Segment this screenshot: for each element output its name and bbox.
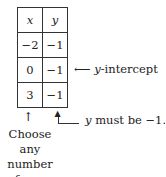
- hook-arrow-icon: [58, 114, 79, 124]
- cell-y: −1: [43, 33, 68, 58]
- hook-arrow-tip-icon: ▲: [55, 109, 61, 118]
- cell-x: −2: [18, 33, 43, 58]
- table-row: −2 −1: [18, 33, 68, 58]
- table-header-row: x y: [18, 8, 68, 33]
- cell-x: 3: [18, 83, 43, 108]
- cell-y: −1: [43, 83, 68, 108]
- choose-line-3: for x.: [0, 172, 60, 177]
- xy-table: x y −2 −1 0 −1 3 −1: [17, 7, 68, 108]
- y-must-annotation: y must be −1.: [85, 113, 165, 127]
- choose-x-annotation: Choose any number for x.: [0, 127, 60, 177]
- header-y: y: [43, 8, 68, 33]
- y-intercept-annotation: ⟵ y-intercept: [74, 62, 158, 76]
- left-arrow-icon: ⟵: [74, 62, 91, 76]
- cell-y: −1: [43, 58, 68, 83]
- up-arrow-icon: ↑: [23, 110, 33, 124]
- header-x: x: [18, 8, 43, 33]
- choose-line-3-suffix: .: [42, 172, 46, 177]
- y-intercept-label: -intercept: [101, 62, 158, 76]
- cell-x: 0: [18, 58, 43, 83]
- choose-line-2: any number: [0, 142, 60, 172]
- choose-line-1: Choose: [0, 127, 60, 142]
- table-row: 3 −1: [18, 83, 68, 108]
- table-row: 0 −1: [18, 58, 68, 83]
- y-must-label: must be −1.: [92, 113, 166, 127]
- choose-line-3-prefix: for: [15, 172, 35, 177]
